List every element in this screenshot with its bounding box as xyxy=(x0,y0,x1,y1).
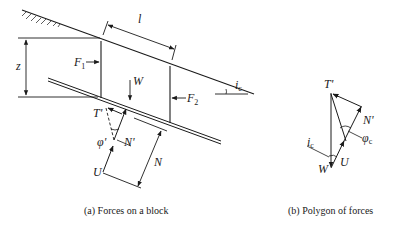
pore-pressure-arrow xyxy=(103,146,113,172)
polygon-slope-angle-arc xyxy=(329,155,337,157)
polygon-effective-normal-label: N' xyxy=(362,113,374,127)
caption-panel-a: (a) Forces on a block xyxy=(84,205,168,216)
slope-angle-arc xyxy=(226,89,227,94)
shear-label: T' xyxy=(93,106,103,120)
force-f2-label: F2 xyxy=(186,91,198,107)
length-label: l xyxy=(138,12,142,26)
effective-normal-label: N' xyxy=(123,135,135,149)
normal-label: N xyxy=(153,155,163,169)
pore-pressure-label: U xyxy=(93,165,103,179)
polygon-slope-angle-label: ic xyxy=(307,135,314,150)
ground-hatching xyxy=(22,12,60,27)
shear-force-arrow xyxy=(108,108,122,114)
polygon-shear-vector xyxy=(333,94,362,107)
panel-a-forces-on-block xyxy=(18,10,254,188)
friction-angle-arc xyxy=(111,129,119,130)
length-dimension-arrow xyxy=(108,25,174,49)
weight-label: W xyxy=(133,74,144,88)
polygon-resultant-line xyxy=(331,94,346,141)
forces-diagram: l z F1 F2 W ic T' φ' N' U N T' N' φc ic … xyxy=(0,0,397,231)
slope-angle-label: ic xyxy=(235,78,242,93)
force-f1-label: F1 xyxy=(73,55,85,71)
depth-label: z xyxy=(15,59,21,73)
resultant-dashed-line xyxy=(106,108,114,140)
caption-panel-b: (b) Polygon of forces xyxy=(288,205,373,216)
polygon-pore-pressure-label: U xyxy=(340,155,350,169)
polygon-friction-angle-label: φc xyxy=(362,131,373,146)
polygon-weight-label: W xyxy=(318,162,329,176)
panel-b-polygon-of-forces xyxy=(307,93,362,168)
polygon-shear-label: T' xyxy=(324,77,334,91)
friction-angle-label: φ' xyxy=(97,135,107,149)
